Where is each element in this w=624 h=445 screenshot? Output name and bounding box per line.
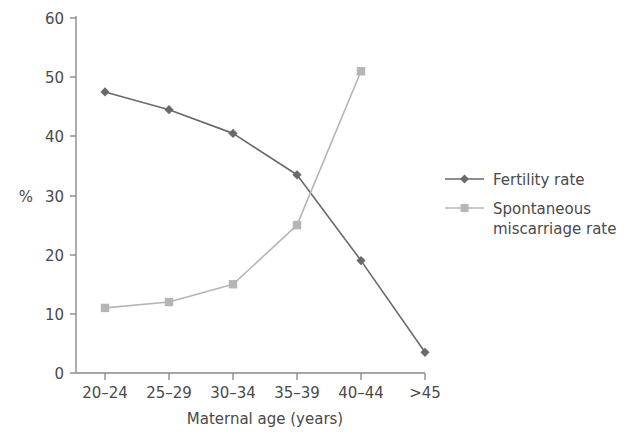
series-line — [105, 71, 361, 308]
data-point-square — [357, 67, 365, 75]
y-tick-label-30: 30 — [45, 188, 64, 206]
x-tick-label-25-29: 25–29 — [146, 384, 192, 402]
chart-container: 60 50 40 30 20 10 0 % 20–24 25–29 30–34 … — [0, 0, 624, 445]
y-tick-label-50: 50 — [45, 69, 64, 87]
data-point-diamond — [228, 129, 237, 138]
data-point-square — [165, 298, 173, 306]
legend: Fertility rate Spontaneous miscarriage r… — [445, 171, 616, 238]
square-marker-icon — [461, 204, 469, 212]
legend-label-miscarriage-line2: miscarriage rate — [493, 220, 616, 238]
y-tick-label-40: 40 — [45, 128, 64, 146]
series-fertility — [100, 87, 429, 357]
legend-item-fertility[interactable]: Fertility rate — [445, 171, 585, 189]
y-tick-label-60: 60 — [45, 10, 64, 28]
legend-label-fertility: Fertility rate — [493, 171, 585, 189]
x-tick-label-20-24: 20–24 — [82, 384, 128, 402]
data-point-diamond — [100, 87, 109, 96]
series-layer — [100, 67, 429, 357]
x-tick-label-40-44: 40–44 — [338, 384, 384, 402]
data-point-square — [293, 221, 301, 229]
data-point-diamond — [164, 105, 173, 114]
line-chart: 60 50 40 30 20 10 0 % 20–24 25–29 30–34 … — [0, 0, 624, 445]
series-miscarriage — [101, 67, 365, 312]
y-tick-label-10: 10 — [45, 306, 64, 324]
y-tick-label-20: 20 — [45, 247, 64, 265]
y-axis-title: % — [19, 188, 33, 206]
legend-item-miscarriage[interactable]: Spontaneous miscarriage rate — [445, 200, 616, 238]
x-tick-label-35-39: 35–39 — [274, 384, 320, 402]
x-axis-title: Maternal age (years) — [187, 410, 343, 428]
x-axis — [76, 373, 425, 380]
diamond-marker-icon — [460, 175, 469, 184]
series-line — [105, 92, 425, 352]
y-tick-label-0: 0 — [54, 365, 64, 383]
x-tick-label-gt45: >45 — [409, 384, 441, 402]
data-point-square — [229, 280, 237, 288]
y-axis — [70, 16, 76, 373]
legend-label-miscarriage-line1: Spontaneous — [493, 200, 591, 218]
data-point-square — [101, 304, 109, 312]
x-tick-label-30-34: 30–34 — [210, 384, 256, 402]
